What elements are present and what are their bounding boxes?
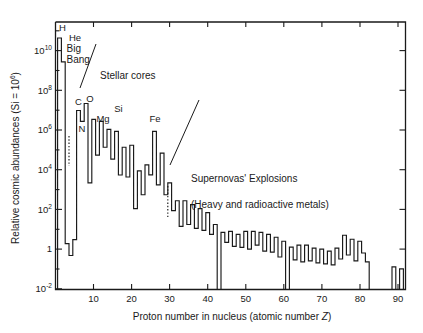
annotation-bang: Bang xyxy=(67,54,90,65)
abundance-chart-figure: 1010 108 106 104 102 1 10-2 10 20 30 40 … xyxy=(0,0,423,333)
element-label-fe: Fe xyxy=(149,113,160,124)
element-label-h: H xyxy=(59,22,66,33)
x-tick-label: 60 xyxy=(279,293,290,304)
y-axis-ticks xyxy=(56,31,63,289)
y-tick-label: 106 xyxy=(38,123,53,135)
annotation-big: Big xyxy=(67,43,81,54)
y-tick-label: 1 xyxy=(47,243,52,254)
y-tick-label: 1010 xyxy=(34,44,52,56)
annotation-stellar-cores: Stellar cores xyxy=(100,70,156,81)
top-axis-ticks xyxy=(94,22,399,27)
element-label-c: C xyxy=(75,96,82,107)
x-axis-ticks xyxy=(94,284,399,290)
element-label-si: Si xyxy=(114,103,122,114)
annotation-leader-lines xyxy=(80,44,199,165)
x-tick-label: 50 xyxy=(241,293,252,304)
x-tick-label: 20 xyxy=(126,293,137,304)
x-tick-label: 80 xyxy=(355,293,366,304)
y-tick-label: 104 xyxy=(38,163,53,175)
x-tick-label: 30 xyxy=(164,293,175,304)
x-axis-title: Proton number in nucleus (atomic number … xyxy=(133,311,331,322)
chart-canvas: 1010 108 106 104 102 1 10-2 10 20 30 40 … xyxy=(0,0,423,333)
element-label-he: He xyxy=(69,32,81,43)
x-tick-label: 90 xyxy=(393,293,404,304)
y-axis-title: Relative cosmic abundances (Si = 106) xyxy=(9,72,21,244)
x-tick-label: 10 xyxy=(88,293,99,304)
process-annotations: Big Bang Stellar cores Supernovas' Explo… xyxy=(67,43,329,210)
x-tick-label: 40 xyxy=(202,293,213,304)
leader-big-bang xyxy=(80,44,96,88)
frame-border xyxy=(56,22,406,290)
x-tick-labels: 10 20 30 40 50 60 70 80 90 xyxy=(88,293,403,304)
leader-supernovas xyxy=(170,100,199,165)
annotation-supernovas-explosions: Supernovas' Explosions xyxy=(191,173,297,184)
y-tick-label: 108 xyxy=(38,84,53,96)
y-tick-label: 10-2 xyxy=(36,282,53,294)
x-tick-label: 70 xyxy=(317,293,328,304)
annotation-heavy-metals: (Heavy and radioactive metals) xyxy=(191,199,329,210)
plot-frame xyxy=(56,22,406,290)
element-label-n: N xyxy=(79,123,86,134)
right-axis-ticks xyxy=(400,51,406,250)
element-label-mg: Mg xyxy=(96,113,109,124)
y-tick-labels: 1010 108 106 104 102 1 10-2 xyxy=(34,44,52,294)
y-tick-label: 102 xyxy=(38,203,53,215)
element-label-o: O xyxy=(86,93,93,104)
